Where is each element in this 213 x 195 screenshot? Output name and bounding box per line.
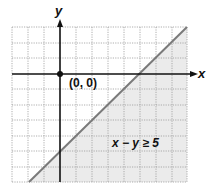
coordinate-plane xyxy=(0,0,213,195)
origin-point xyxy=(57,71,63,77)
y-axis-label: y xyxy=(55,3,62,18)
origin-label: (0, 0) xyxy=(69,76,97,90)
inequality-label: x − y ≥ 5 xyxy=(112,136,159,150)
x-axis-label: x xyxy=(198,66,205,81)
y-axis-arrow-icon xyxy=(57,19,63,27)
x-axis-arrow-icon xyxy=(190,71,198,77)
